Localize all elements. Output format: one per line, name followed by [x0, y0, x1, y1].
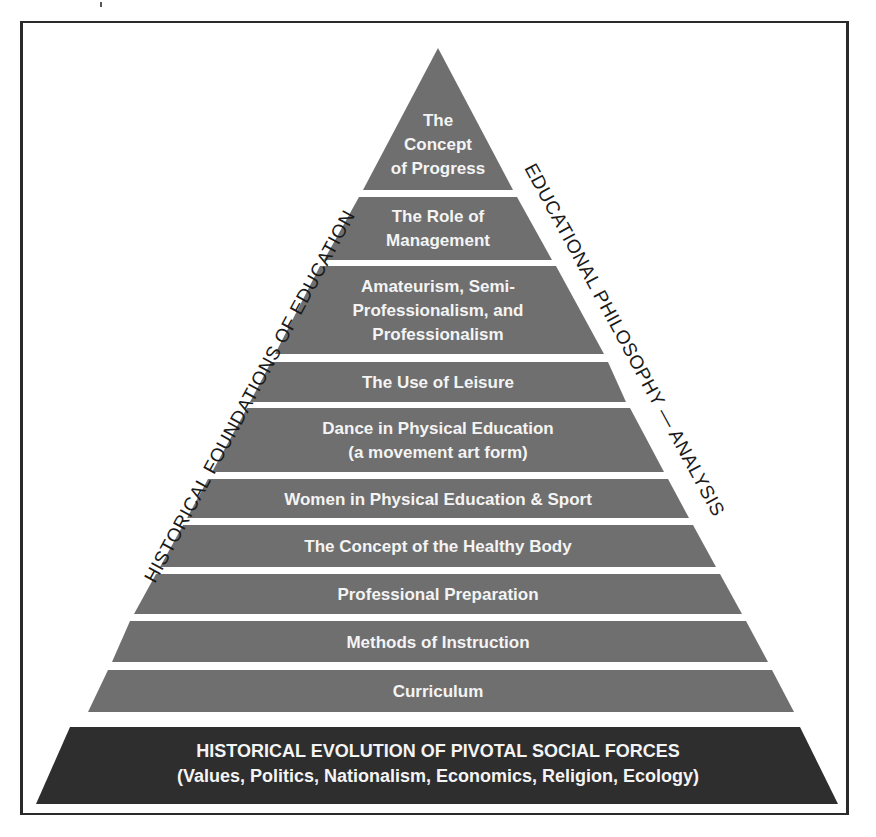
level-label: Amateurism, Semi- [361, 277, 515, 296]
level-label: The Concept of the Healthy Body [304, 537, 572, 556]
level-label: Methods of Instruction [346, 633, 529, 652]
pyramid-base-social-forces: HISTORICAL EVOLUTION OF PIVOTAL SOCIAL F… [36, 727, 838, 804]
pyramid-level-concept-of-progress: The Concept of Progress [363, 48, 513, 190]
level-label: The Use of Leisure [362, 373, 514, 392]
pyramid-level-use-of-leisure: The Use of Leisure [250, 362, 626, 402]
base-title: HISTORICAL EVOLUTION OF PIVOTAL SOCIAL F… [196, 741, 679, 761]
pyramid-level-dance: Dance in Physical Education (a movement … [212, 408, 664, 472]
level-label: (a movement art form) [348, 443, 527, 462]
pyramid-level-curriculum: Curriculum [88, 670, 794, 712]
pyramid-diagram: The Concept of Progress The Role of Mana… [0, 0, 876, 837]
level-label: Curriculum [393, 682, 484, 701]
pyramid-level-methods-of-instruction: Methods of Instruction [112, 621, 768, 662]
pyramid-level-healthy-body: The Concept of the Healthy Body [160, 525, 716, 567]
base-subtitle: (Values, Politics, Nationalism, Economic… [177, 766, 699, 786]
level-label: The [423, 111, 453, 130]
pyramid-level-professional-preparation: Professional Preparation [134, 574, 742, 614]
level-label: Professionalism [372, 325, 503, 344]
level-label: Women in Physical Education & Sport [284, 490, 592, 509]
level-label: Management [386, 231, 490, 250]
level-label: of Progress [391, 159, 485, 178]
pyramid-level-role-of-management: The Role of Management [324, 197, 552, 260]
level-label: The Role of [392, 207, 485, 226]
level-label: Concept [404, 135, 472, 154]
pyramid-level-women: Women in Physical Education & Sport [187, 479, 689, 518]
level-label: Professional Preparation [337, 585, 538, 604]
level-label: Professionalism, and [353, 301, 524, 320]
level-label: Dance in Physical Education [322, 419, 553, 438]
